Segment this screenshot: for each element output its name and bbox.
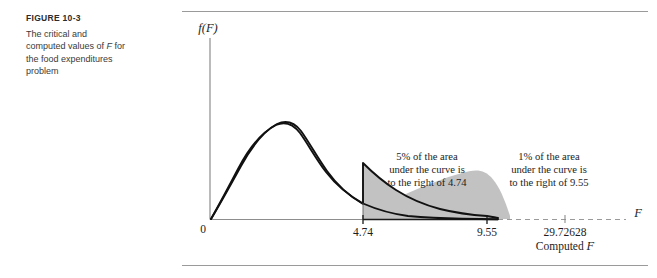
annotation-5-percent-line1: 5% of the area <box>396 151 458 162</box>
annotation-1-percent: 1% of the area under the curve is to the… <box>509 151 588 188</box>
figure-number-label: FIGURE 10-3 <box>26 13 166 23</box>
figure-caption-block: FIGURE 10-3 The critical and computed va… <box>26 13 166 78</box>
computed-f-caption-prefix: Computed <box>536 240 587 253</box>
annotation-5-percent-line3: to the right of 4.74 <box>387 177 467 188</box>
annotation-5-percent-line2: under the curve is <box>389 164 465 175</box>
x-axis-label: F <box>633 206 642 220</box>
y-axis-label: f(F) <box>198 21 217 35</box>
caption-line-3: the food expenditures <box>26 54 113 64</box>
computed-f-caption: Computed F <box>536 239 595 253</box>
annotation-5-percent: 5% of the area under the curve is to the… <box>387 151 467 188</box>
chart-svg: f(F) 0 F 4.74 9.55 29.72628 Computed F 5… <box>182 14 652 262</box>
figure-page: FIGURE 10-3 The critical and computed va… <box>0 0 657 278</box>
divider-top <box>182 11 648 12</box>
caption-line-2-suffix: for <box>112 41 125 51</box>
figure-caption-text: The critical and computed values of F fo… <box>26 28 166 78</box>
annotation-1-percent-line1: 1% of the area <box>518 151 580 162</box>
annotation-1-percent-line3: to the right of 9.55 <box>509 177 588 188</box>
annotation-1-percent-line2: under the curve is <box>511 164 587 175</box>
tick-label-955: 9.55 <box>477 226 497 238</box>
divider-bottom <box>182 265 648 266</box>
caption-line-2-prefix: computed values of <box>26 41 107 51</box>
caption-line-4: problem <box>26 66 59 76</box>
origin-label: 0 <box>200 223 206 235</box>
f-distribution-chart: f(F) 0 F 4.74 9.55 29.72628 Computed F 5… <box>182 14 652 262</box>
computed-f-caption-italic: F <box>586 239 595 253</box>
tick-label-2972628: 29.72628 <box>543 226 586 238</box>
tick-label-474: 4.74 <box>353 226 373 238</box>
caption-line-1: The critical and <box>26 29 87 39</box>
